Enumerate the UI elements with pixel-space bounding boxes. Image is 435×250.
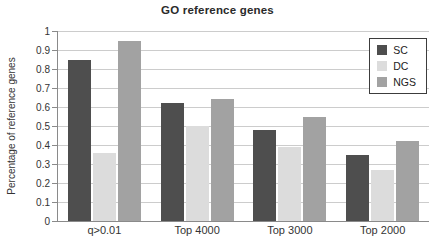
bar-sc-1 — [68, 60, 91, 222]
x-axis-category-labels: q>0.01Top 4000Top 3000Top 2000 — [58, 224, 429, 236]
bar-ngs-1 — [118, 41, 141, 222]
legend-label: NGS — [393, 76, 416, 88]
y-tick-label: 0.1 — [14, 197, 50, 208]
legend-item-sc: SC — [377, 44, 416, 56]
y-tick-label: 0.5 — [14, 121, 50, 132]
bar-group-q-0-01 — [58, 31, 151, 221]
x-category-label: Top 4000 — [151, 224, 244, 236]
y-tick-mark — [52, 202, 57, 203]
y-tick-label: 0.2 — [14, 178, 50, 189]
y-tick-mark — [52, 50, 57, 51]
bar-dc-4 — [371, 170, 394, 221]
y-tick-label: 0.6 — [14, 102, 50, 113]
bar-dc-3 — [278, 147, 301, 221]
y-tick-label: 0.4 — [14, 140, 50, 151]
bar-group-top-3000 — [244, 31, 337, 221]
go-reference-genes-chart: GO reference genes Percentage of referen… — [0, 0, 435, 250]
legend-item-ngs: NGS — [377, 76, 416, 88]
x-category-label: Top 2000 — [336, 224, 429, 236]
legend-swatch-icon — [377, 61, 387, 71]
legend-item-dc: DC — [377, 60, 416, 72]
y-tick-mark — [52, 183, 57, 184]
y-tick-label: 1 — [14, 26, 50, 37]
y-tick-label: 0.3 — [14, 159, 50, 170]
legend-label: SC — [393, 44, 408, 56]
y-tick-label: 0.9 — [14, 45, 50, 56]
y-tick-label: 0.8 — [14, 64, 50, 75]
y-tick-mark — [52, 88, 57, 89]
bar-sc-2 — [161, 103, 184, 221]
bar-sc-3 — [253, 130, 276, 221]
bar-ngs-2 — [211, 99, 234, 221]
y-tick-mark — [52, 164, 57, 165]
legend-swatch-icon — [377, 77, 387, 87]
legend-label: DC — [393, 60, 408, 72]
bar-ngs-4 — [396, 141, 419, 221]
legend: SCDCNGS — [369, 38, 427, 94]
y-tick-label: 0.7 — [14, 83, 50, 94]
bar-group-top-4000 — [151, 31, 244, 221]
y-tick-mark — [52, 69, 57, 70]
y-tick-mark — [52, 126, 57, 127]
x-category-label: q>0.01 — [58, 224, 151, 236]
x-category-label: Top 3000 — [244, 224, 337, 236]
y-tick-mark — [52, 145, 57, 146]
bar-ngs-3 — [303, 117, 326, 222]
bar-dc-1 — [93, 153, 116, 221]
bar-dc-2 — [186, 126, 209, 221]
y-tick-mark — [52, 31, 57, 32]
legend-swatch-icon — [377, 45, 387, 55]
y-tick-mark — [52, 221, 57, 222]
y-tick-mark — [52, 107, 57, 108]
plot-area: 00.10.20.30.40.50.60.70.80.91 q>0.01Top … — [57, 31, 429, 222]
y-tick-label: 0 — [14, 216, 50, 227]
chart-title: GO reference genes — [0, 4, 435, 16]
bar-sc-4 — [346, 155, 369, 222]
